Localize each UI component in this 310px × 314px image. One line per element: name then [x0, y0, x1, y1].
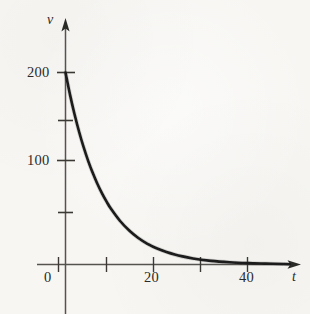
x-tick-label-40: 40	[239, 270, 254, 285]
y-tick-label-200: 200	[27, 65, 49, 80]
y-axis-label: v	[47, 13, 53, 27]
graph-figure: 200 100 20 40 0 v t	[0, 0, 310, 314]
x-axis-label: t	[292, 270, 296, 284]
origin-label: 0	[44, 270, 51, 285]
y-tick-label-100: 100	[27, 153, 49, 168]
axes-group	[37, 18, 301, 314]
x-tick-label-20: 20	[144, 270, 159, 285]
decay-curve-group	[66, 73, 291, 265]
